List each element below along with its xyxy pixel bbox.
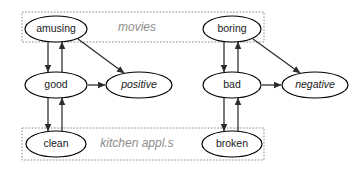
node-broken[interactable]: broken <box>202 131 262 157</box>
node-bad[interactable]: bad <box>203 72 261 98</box>
nodes-layer: amusingboringgoodbadpositivenegativeclea… <box>25 16 348 157</box>
node-clean[interactable]: clean <box>26 131 86 157</box>
node-label-good: good <box>44 78 68 90</box>
diagram-root: movies kitchen appl.s amusingboringgoodb… <box>0 0 364 170</box>
node-label-boring: boring <box>217 22 246 34</box>
edge-amusing-to-positive <box>78 39 124 73</box>
edge-boring-to-negative <box>253 39 300 73</box>
node-positive[interactable]: positive <box>106 72 172 98</box>
node-good[interactable]: good <box>25 72 87 98</box>
node-amusing[interactable]: amusing <box>25 16 87 42</box>
node-negative[interactable]: negative <box>282 72 348 98</box>
node-label-positive: positive <box>120 78 157 90</box>
sentiment-domain-graph: movies kitchen appl.s amusingboringgoodb… <box>0 0 364 170</box>
group-label-movies: movies <box>118 20 156 34</box>
node-boring[interactable]: boring <box>203 16 261 42</box>
node-label-amusing: amusing <box>36 22 76 34</box>
node-label-clean: clean <box>43 137 68 149</box>
node-label-broken: broken <box>216 137 248 149</box>
group-label-kitchen: kitchen appl.s <box>100 136 173 150</box>
node-label-bad: bad <box>223 78 241 90</box>
node-label-negative: negative <box>295 78 335 90</box>
